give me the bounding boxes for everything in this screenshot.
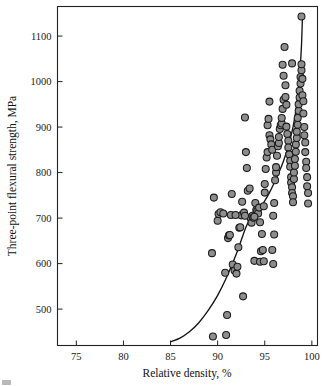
data-point [303, 165, 310, 172]
scatter-plot-svg: 7580859095100 50060070080090010001100 Re… [0, 0, 333, 386]
data-point [292, 141, 299, 148]
data-point [293, 128, 300, 135]
data-point [279, 61, 286, 68]
data-point [305, 200, 312, 207]
data-point [301, 132, 308, 139]
data-point [291, 162, 298, 169]
data-point [266, 98, 273, 105]
data-point [242, 149, 249, 156]
data-point [270, 212, 277, 219]
data-point [239, 198, 246, 205]
y-tick-label-1000: 1000 [31, 76, 52, 87]
x-tick-label-90: 90 [212, 351, 223, 362]
data-point [260, 258, 267, 265]
data-point [251, 213, 258, 220]
x-axis-title: Relative density, % [143, 367, 232, 380]
data-point [210, 194, 217, 201]
data-point [259, 246, 266, 253]
data-point [290, 199, 297, 206]
data-point [275, 134, 282, 141]
data-point [264, 122, 271, 129]
data-point [243, 165, 250, 172]
data-point [240, 293, 247, 300]
data-point [273, 152, 280, 159]
y-tick-label-700: 700 [36, 213, 52, 224]
data-point [300, 98, 307, 105]
data-point [272, 177, 279, 184]
data-point [280, 72, 287, 79]
data-point [284, 130, 291, 137]
y-tick-label-1100: 1100 [31, 31, 52, 42]
data-point [260, 203, 267, 210]
y-axis-tick-labels: 50060070080090010001100 [31, 31, 52, 315]
data-point [209, 333, 216, 340]
data-point [285, 144, 292, 151]
data-point [285, 137, 292, 144]
data-point [294, 121, 301, 128]
x-axis-tick-labels: 7580859095100 [71, 351, 320, 362]
data-point [224, 312, 231, 319]
plot-frame [58, 7, 318, 346]
data-point [301, 124, 308, 131]
data-point [304, 174, 311, 181]
data-point [269, 246, 276, 253]
data-point [235, 244, 242, 251]
data-point [233, 270, 240, 277]
y-tick-label-800: 800 [36, 167, 52, 178]
data-point [282, 82, 289, 89]
data-point [246, 185, 253, 192]
data-point [283, 101, 290, 108]
data-point [281, 44, 288, 51]
data-point [208, 250, 215, 257]
data-point [283, 123, 290, 130]
data-point [241, 114, 248, 121]
data-point [237, 224, 244, 231]
data-point [298, 61, 305, 68]
y-axis-ticks [58, 36, 63, 309]
data-point [232, 211, 239, 218]
data-point [261, 189, 268, 196]
data-point [265, 115, 272, 122]
data-point [278, 114, 285, 121]
data-point [222, 269, 229, 276]
data-point [290, 169, 297, 176]
data-point-group [208, 13, 311, 340]
data-point [234, 263, 241, 270]
y-tick-label-900: 900 [36, 122, 52, 133]
data-point [273, 164, 280, 171]
data-point [271, 231, 278, 238]
data-point [282, 94, 289, 101]
data-point [305, 190, 312, 197]
data-point [226, 231, 233, 238]
data-point [291, 155, 298, 162]
chart-figure: 7580859095100 50060070080090010001100 Re… [0, 0, 333, 386]
data-point [220, 210, 227, 217]
data-point [302, 139, 309, 146]
data-point [270, 261, 277, 268]
data-point [302, 149, 309, 156]
data-point [257, 219, 264, 226]
x-tick-label-75: 75 [71, 351, 82, 362]
y-axis-title: Three-point flexural strength, MPa [6, 96, 19, 256]
y-tick-label-600: 600 [36, 258, 52, 269]
y-tick-label-500: 500 [36, 304, 52, 315]
data-point [262, 165, 269, 172]
x-tick-label-80: 80 [118, 351, 129, 362]
data-point [223, 332, 230, 339]
x-axis-ticks [76, 341, 312, 346]
x-tick-label-85: 85 [165, 351, 176, 362]
data-point [289, 60, 296, 67]
data-point [258, 231, 265, 238]
data-point [228, 190, 235, 197]
page-corner-mark [2, 380, 11, 385]
data-point [241, 212, 248, 219]
x-tick-label-100: 100 [304, 351, 320, 362]
data-point [304, 183, 311, 190]
data-point [271, 200, 278, 207]
data-point [214, 217, 221, 224]
data-point [298, 13, 305, 20]
data-point [300, 110, 307, 117]
data-point [299, 75, 306, 82]
x-tick-label-95: 95 [259, 351, 270, 362]
data-point [292, 148, 299, 155]
